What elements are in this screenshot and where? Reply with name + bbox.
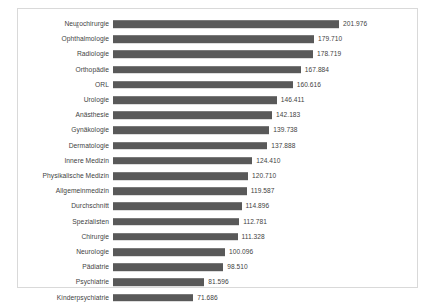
bar (113, 142, 267, 150)
bar-value-label: 124.410 (256, 158, 280, 165)
category-label: Dermatologie (69, 142, 109, 149)
bar-track: 71.686 (113, 290, 339, 305)
bar-track: 167.884 (113, 62, 339, 77)
bar (113, 172, 248, 180)
bar-row: Durchschnitt114.896 (18, 199, 417, 214)
bar-track: 139.738 (113, 123, 339, 138)
bar (113, 35, 314, 43)
plot-area: Neurochirurgie201.976Ophthalmologie179.7… (18, 9, 417, 287)
category-label: Psychiatrie (76, 279, 109, 286)
bar-track: 160.616 (113, 77, 339, 92)
bar-row: Spezialisten112.781 (18, 214, 417, 229)
bar-row: Gynäkologie139.738 (18, 123, 417, 138)
bar-value-label: 178.719 (317, 51, 341, 58)
category-label: Pädiatrie (82, 264, 109, 271)
bar-value-label: 142.183 (276, 112, 300, 119)
bar (113, 157, 252, 165)
bar-track: 142.183 (113, 108, 339, 123)
bar-value-label: 179.710 (318, 36, 342, 43)
bar-track: 137.888 (113, 138, 339, 153)
bar (113, 111, 272, 119)
bar (113, 263, 223, 271)
bar (113, 187, 247, 195)
bar-row: Anästhesie142.183 (18, 108, 417, 123)
bar-track: 124.410 (113, 153, 339, 168)
bar-row: Chirurgie111.328 (18, 229, 417, 244)
bar-value-label: 137.888 (271, 142, 295, 149)
category-label: Kinderpsychiatrie (57, 294, 109, 301)
bar-row: Dermatologie137.888 (18, 138, 417, 153)
bar-row: Psychiatrie81.596 (18, 275, 417, 290)
bar (113, 81, 293, 89)
category-label: Radiologie (77, 51, 109, 58)
category-label: ORL (95, 82, 109, 89)
bar-track: 111.328 (113, 229, 339, 244)
category-label: Urologie (84, 97, 109, 104)
bar (113, 96, 277, 104)
bar-row: Radiologie178.719 (18, 47, 417, 62)
bar-value-label: 71.686 (197, 294, 217, 301)
bar-value-label: 100.096 (229, 249, 253, 256)
bar-track: 119.587 (113, 184, 339, 199)
bar (113, 20, 339, 28)
bar-track: 112.781 (113, 214, 339, 229)
bar-row: ORL160.616 (18, 77, 417, 92)
bar-track: 146.411 (113, 93, 339, 108)
category-label: Chirurgie (81, 234, 109, 241)
category-label: Orthopädie (75, 66, 109, 73)
bar-value-label: 146.411 (281, 97, 305, 104)
bar (113, 279, 204, 287)
category-label: Gynäkologie (71, 127, 109, 134)
bar-row: Urologie146.411 (18, 93, 417, 108)
category-label: Ophthalmologie (61, 36, 109, 43)
bar (113, 127, 269, 135)
bar-track: 120.710 (113, 169, 339, 184)
bar-row: Physikalische Medizin120.710 (18, 169, 417, 184)
bar-row: Ophthalmologie179.710 (18, 32, 417, 47)
bar-value-label: 167.884 (305, 66, 329, 73)
bar-value-label: 112.781 (243, 218, 267, 225)
category-label: Durchschnitt (71, 203, 109, 210)
bar (113, 203, 242, 211)
category-label: Physikalische Medizin (43, 173, 109, 180)
bar-track: 100.096 (113, 245, 339, 260)
bar (113, 294, 193, 302)
bar-track: 114.896 (113, 199, 339, 214)
bar-row: Allgemeinmedizin119.587 (18, 184, 417, 199)
category-label: Innere Medizin (64, 158, 109, 165)
bar-track: 98.510 (113, 260, 339, 275)
bar-track: 81.596 (113, 275, 339, 290)
bar-value-label: 160.616 (297, 82, 321, 89)
bar-row: Innere Medizin124.410 (18, 153, 417, 168)
bar (113, 51, 313, 59)
bar-track: 179.710 (113, 32, 339, 47)
bar-row: Orthopädie167.884 (18, 62, 417, 77)
bar-value-label: 201.976 (343, 21, 367, 28)
bar (113, 66, 301, 74)
bar-row: Neurochirurgie201.976 (18, 17, 417, 32)
category-label: Neurologie (76, 249, 109, 256)
bar-track: 201.976 (113, 17, 339, 32)
bar (113, 248, 225, 256)
bar-value-label: 119.587 (251, 188, 275, 195)
bar-value-label: 81.596 (208, 279, 228, 286)
bar-value-label: 120.710 (252, 173, 276, 180)
bar (113, 233, 238, 241)
bar-chart: Neurochirurgie201.976Ophthalmologie179.7… (17, 8, 418, 288)
bar-value-label: 114.896 (246, 203, 270, 210)
bar-row: Neurologie100.096 (18, 245, 417, 260)
bar-value-label: 111.328 (242, 234, 265, 241)
bar-track: 178.719 (113, 47, 339, 62)
bar-value-label: 98.510 (227, 264, 247, 271)
bar-row: Pädiatrie98.510 (18, 260, 417, 275)
bar-row: Kinderpsychiatrie71.686 (18, 290, 417, 305)
category-label: Neurochirurgie (64, 21, 109, 28)
category-label: Anästhesie (75, 112, 109, 119)
category-label: Spezialisten (72, 218, 109, 225)
bar-value-label: 139.738 (273, 127, 297, 134)
bar (113, 218, 239, 226)
category-label: Allgemeinmedizin (56, 188, 109, 195)
